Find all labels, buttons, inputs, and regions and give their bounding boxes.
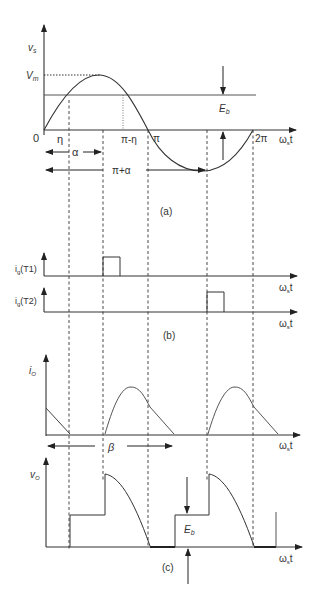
- panel-b: ig(T1) ig(T2) ωst ωst (b): [15, 253, 297, 341]
- vo-label: vO: [30, 469, 40, 481]
- ig-t1-gate-pulse: [103, 257, 120, 276]
- pi-label: π: [153, 133, 160, 144]
- alpha-label: α: [72, 146, 79, 158]
- caption-c: (c): [162, 562, 174, 573]
- io-pulse-2: [208, 387, 278, 434]
- ig-t2-label: ig(T2): [15, 296, 37, 307]
- pi-plus-alpha-label: π+α: [112, 165, 131, 176]
- panel-c-current: β iO ωst: [29, 355, 300, 453]
- ig-t1-label: ig(T1): [15, 264, 37, 275]
- panel-a-x-label: ωst: [279, 134, 293, 146]
- vo-x-label: ωst: [279, 553, 293, 565]
- io-pulse-1: [105, 387, 174, 434]
- panel-c-voltage: Eb vO ωst (c): [30, 458, 302, 584]
- caption-a: (a): [160, 206, 172, 217]
- vm-label: Vm: [26, 70, 39, 82]
- caption-b: (b): [163, 330, 175, 341]
- thyristor-waveform-diagram: vs Vm Eb 0 η π-η π 2π α π+α ωst (a) ig(T…: [0, 0, 317, 602]
- ig-t1-x-label: ωst: [279, 282, 293, 294]
- beta-label: β: [107, 441, 115, 453]
- ig-t2-x-label: ωst: [279, 318, 293, 330]
- pi-minus-eta-label: π-η: [121, 134, 137, 145]
- panel-a: vs Vm Eb 0 η π-η π 2π α π+α ωst (a): [26, 25, 296, 217]
- io-tail-segment: [46, 408, 70, 434]
- vo-eb-label: Eb: [184, 524, 195, 536]
- ig-t2-gate-pulse: [207, 292, 224, 312]
- vs-label: vs: [28, 42, 37, 54]
- io-x-label: ωst: [279, 440, 293, 452]
- dashed-guides: [69, 100, 253, 550]
- two-pi-label: 2π: [255, 133, 268, 144]
- vo-segment-1: [70, 474, 150, 547]
- eta-label: η: [57, 133, 63, 145]
- eb-label: Eb: [219, 103, 230, 115]
- io-label: iO: [29, 365, 36, 377]
- origin-label: 0: [33, 132, 39, 144]
